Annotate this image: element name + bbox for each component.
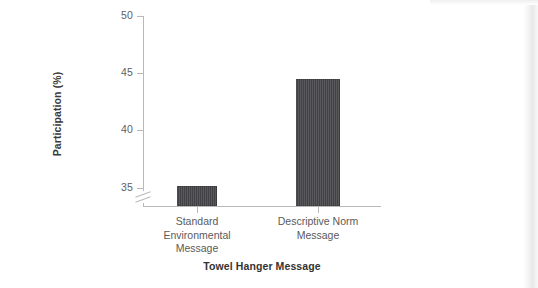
- x-tick-mark-2: [318, 207, 319, 213]
- bar-chart: 50 45 40 35 Participation (%) Stan: [0, 0, 538, 288]
- y-tick-mark-45: [137, 73, 143, 74]
- y-tick-mark-50: [137, 16, 143, 17]
- y-tick-label-50: 50: [99, 9, 133, 21]
- y-tick-mark-40: [137, 130, 143, 131]
- y-tick-label-45: 45: [99, 66, 133, 78]
- y-tick-group-35: 35: [95, 188, 143, 189]
- x-tick-label-descriptive-norm-message: Descriptive Norm Message: [258, 215, 378, 242]
- y-tick-group-50: 50: [95, 16, 143, 17]
- y-tick-group-40: 40: [95, 130, 143, 131]
- bar-standard-environmental-message: [177, 186, 217, 206]
- x-tick-label-standard-environmental-message: Standard Environmental Message: [142, 215, 252, 256]
- y-tick-label-40: 40: [99, 123, 133, 135]
- x-tick-mark-1: [197, 207, 198, 213]
- x-tick-label-line-2: Message: [258, 229, 378, 243]
- x-axis-line: [143, 206, 381, 207]
- x-tick-label-line-2: Environmental: [142, 229, 252, 243]
- y-tick-mark-35: [137, 188, 143, 189]
- x-tick-label-line-1: Standard: [142, 215, 252, 229]
- y-axis-line: [143, 16, 144, 206]
- y-tick-label-35: 35: [99, 181, 133, 193]
- x-tick-label-line-1: Descriptive Norm: [258, 215, 378, 229]
- x-axis-title: Towel Hanger Message: [143, 260, 381, 272]
- y-tick-group-45: 45: [95, 73, 143, 74]
- chart-page: 50 45 40 35 Participation (%) Stan: [0, 0, 538, 288]
- y-axis-title: Participation (%): [51, 54, 63, 174]
- x-tick-label-line-3: Message: [142, 242, 252, 256]
- bar-descriptive-norm-message: [296, 79, 340, 206]
- axis-break-icon: [135, 190, 153, 204]
